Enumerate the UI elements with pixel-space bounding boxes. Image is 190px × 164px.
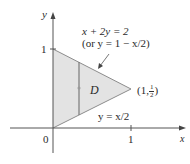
x-axis-label: x	[180, 133, 184, 145]
x-axis-arrow-icon	[179, 126, 186, 131]
point-close-paren: )	[154, 84, 158, 96]
upper-equation-text: x + 2y = 2	[82, 25, 129, 37]
pointer-arrow-icon	[98, 63, 103, 69]
region-diagram: y x 1 1 0 D x + 2y = 2 (or y = 1 − x/2) …	[0, 0, 190, 164]
y-tick-label: 1	[41, 43, 47, 55]
origin-label: 0	[43, 133, 49, 145]
y-axis-label: y	[42, 8, 47, 20]
upper-equation-line2: (or y = 1 − x/2)	[82, 37, 150, 49]
lower-equation: y = x/2	[98, 110, 129, 122]
vertex-point-label: (1,12)	[137, 84, 158, 99]
point-x: 1,	[141, 84, 149, 96]
pointer-line	[100, 54, 109, 66]
y-axis-arrow-icon	[51, 12, 56, 19]
upper-equation-line1: x + 2y = 2	[82, 25, 129, 37]
region-label: D	[90, 84, 99, 96]
strip-dot	[78, 87, 81, 90]
x-tick-label: 1	[128, 133, 134, 145]
